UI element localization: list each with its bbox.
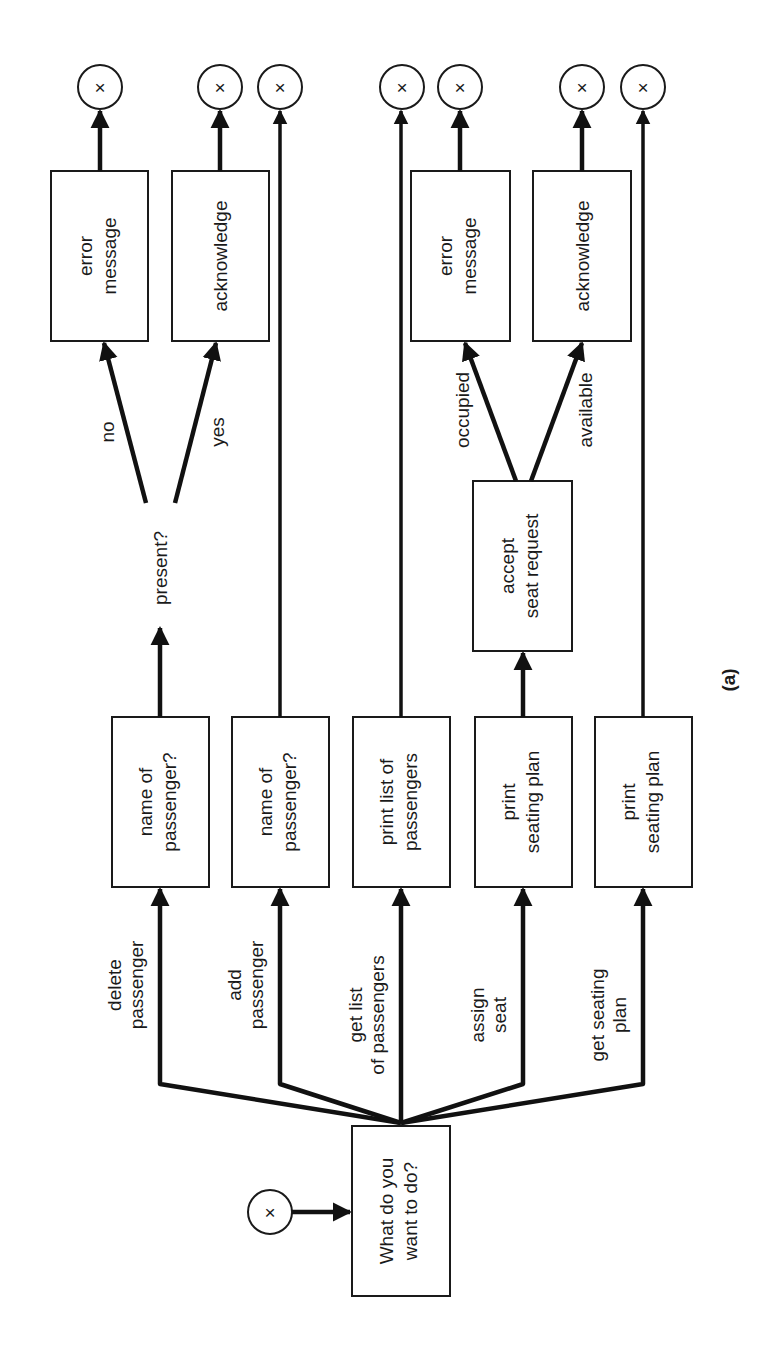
svg-text:of passengers: of passengers — [367, 955, 388, 1074]
outcome-label-no: no — [97, 421, 118, 442]
terminal-x-icon: × — [264, 1202, 275, 1223]
branch-label-delete-passenger: delete passenger — [104, 940, 147, 1029]
svg-text:plan: plan — [609, 997, 630, 1033]
terminal-x-icon: × — [576, 77, 587, 98]
terminal-x-icon: × — [274, 77, 285, 98]
step-box-print-seating-get: print seating plan — [595, 717, 692, 887]
start-question-box: What do you want to do? — [352, 1126, 450, 1296]
svg-text:seating plan: seating plan — [642, 751, 663, 853]
step-box-delete-name: name of passenger? — [112, 717, 209, 887]
start-terminal: × — [248, 1190, 292, 1234]
terminal-x-icon: × — [454, 77, 465, 98]
svg-text:assign: assign — [467, 988, 488, 1043]
end-terminal-5: × — [438, 65, 482, 109]
svg-text:print: print — [498, 783, 519, 821]
end-terminal-4: × — [380, 65, 424, 109]
svg-text:print list of: print list of — [376, 758, 397, 845]
terminal-x-icon: × — [214, 77, 225, 98]
end-terminal-2: × — [198, 65, 242, 109]
action-box-error-message-2: error message — [411, 171, 510, 341]
svg-text:(a): (a) — [718, 668, 739, 691]
svg-text:passenger: passenger — [126, 940, 147, 1029]
svg-text:accept: accept — [497, 537, 518, 594]
branch-label-get-list: get list of passengers — [345, 955, 388, 1074]
action-box-acknowledge-2: acknowledge — [533, 171, 631, 341]
outcome-label-occupied: occupied — [452, 372, 473, 448]
svg-text:no: no — [97, 421, 118, 442]
svg-text:error: error — [75, 235, 96, 276]
outcome-label-yes: yes — [207, 417, 228, 447]
branch-connectors — [160, 889, 643, 1123]
end-terminal-6: × — [560, 65, 604, 109]
step-box-print-seating-assign: print seating plan — [475, 717, 572, 887]
start-question-line1: What do you — [376, 1158, 397, 1265]
svg-text:message: message — [99, 217, 120, 294]
svg-text:seat: seat — [489, 996, 510, 1033]
svg-text:get list: get list — [345, 987, 366, 1043]
branch-label-get-seating-plan: get seating plan — [587, 969, 630, 1062]
end-terminal-3: × — [258, 65, 302, 109]
action-box-error-message-1: error message — [51, 171, 148, 341]
svg-text:acknowledge: acknowledge — [210, 201, 231, 312]
svg-text:acknowledge: acknowledge — [572, 201, 593, 312]
terminal-x-icon: × — [94, 77, 105, 98]
step-box-accept-seat-request: accept seat request — [473, 481, 572, 651]
svg-text:seat request: seat request — [521, 513, 542, 618]
figure-caption: (a) — [718, 668, 739, 691]
svg-text:yes: yes — [207, 417, 228, 447]
action-box-acknowledge-1: acknowledge — [172, 171, 269, 341]
start-question-line2: want to do? — [400, 1162, 421, 1261]
step-box-add-name: name of passenger? — [232, 717, 329, 887]
svg-text:passenger?: passenger? — [279, 752, 300, 851]
branch-label-add-passenger: add passenger — [224, 940, 267, 1029]
step-box-print-list: print list of passengers — [353, 717, 450, 887]
svg-text:seating plan: seating plan — [522, 751, 543, 853]
terminal-x-icon: × — [637, 77, 648, 98]
decision-present: present? — [150, 531, 171, 605]
svg-text:present?: present? — [150, 531, 171, 605]
svg-text:name of: name of — [255, 767, 276, 836]
svg-text:print: print — [618, 783, 639, 821]
svg-text:passenger?: passenger? — [159, 752, 180, 851]
svg-text:get seating: get seating — [587, 969, 608, 1062]
svg-text:add: add — [224, 969, 245, 1001]
svg-text:occupied: occupied — [452, 372, 473, 448]
branch-label-assign-seat: assign seat — [467, 988, 510, 1043]
svg-text:delete: delete — [104, 959, 125, 1011]
outcome-label-available: available — [575, 373, 596, 448]
dialog-flow-diagram: × What do you want to do? delete passeng… — [0, 0, 774, 1345]
svg-text:message: message — [459, 217, 480, 294]
svg-text:error: error — [435, 235, 456, 276]
end-terminal-1: × — [78, 65, 122, 109]
svg-text:name of: name of — [135, 767, 156, 836]
end-terminal-7: × — [621, 65, 665, 109]
terminal-x-icon: × — [396, 77, 407, 98]
svg-text:available: available — [575, 373, 596, 448]
svg-text:passenger: passenger — [246, 940, 267, 1029]
svg-text:passengers: passengers — [400, 753, 421, 851]
